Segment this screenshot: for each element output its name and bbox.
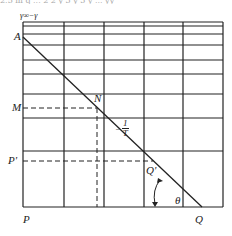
grid-lines [23, 22, 223, 207]
grid-diagram [0, 0, 232, 236]
label-N: N [94, 92, 101, 104]
slope-sign: − [115, 125, 120, 134]
y-axis-label: γ∞−γ [20, 11, 37, 20]
arrow-head-top [157, 178, 163, 183]
label-Q-prime: Q' [146, 164, 156, 176]
diagonal-line [23, 37, 202, 207]
angle-arc [154, 180, 160, 204]
label-P: P [23, 213, 30, 225]
dashed-guides [23, 108, 153, 207]
slope-denominator: T [123, 128, 128, 138]
label-Q: Q [195, 213, 203, 225]
label-theta: θ [175, 194, 180, 206]
label-A: A [14, 30, 21, 42]
label-M: M [12, 101, 21, 113]
arrow-head-bottom [152, 202, 158, 207]
slope-fraction: 1 T [122, 119, 129, 138]
label-P-prime: P' [8, 154, 17, 166]
